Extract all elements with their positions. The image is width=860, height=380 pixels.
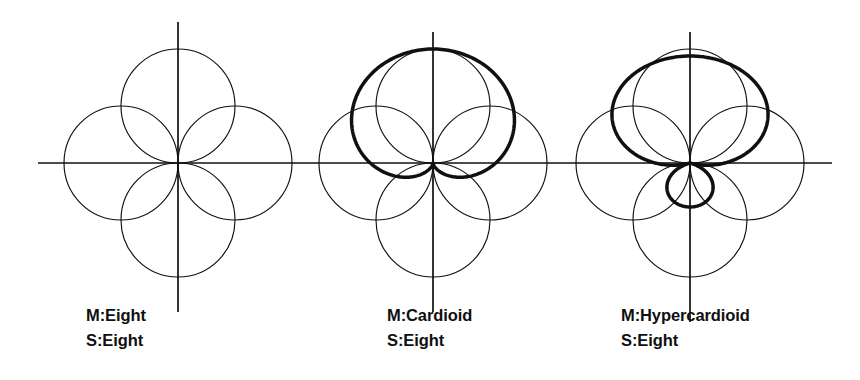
caption-panel-2: M:Cardioid S:Eight <box>387 303 472 353</box>
caption-panel-1: M:EightS:Eight <box>86 303 190 353</box>
panel-cardioid-eight <box>318 32 600 312</box>
panel-hypercardioid-eight <box>576 32 832 322</box>
caption-1-side-label: S:Eight <box>86 328 190 353</box>
caption-panel-3: M:Hypercardioid S:Eight <box>621 303 750 353</box>
panel-eight-eight <box>38 22 318 312</box>
caption-2-mid-label: M:Cardioid <box>387 303 472 328</box>
caption-2-side-label: S:Eight <box>387 328 472 353</box>
caption-3-side-label: S:Eight <box>621 328 750 353</box>
polar-pattern-figure: M:EightS:Eight M:Cardioid S:Eight M:Hype… <box>0 0 860 380</box>
caption-3-mid-label: M:Hypercardioid <box>621 303 750 328</box>
caption-1-mid-label: M:Eight <box>86 303 190 328</box>
